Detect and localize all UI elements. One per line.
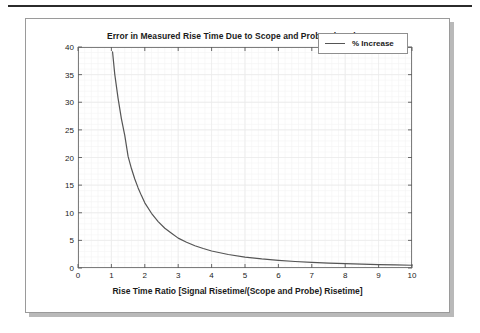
series-line-percent-increase [113,52,412,265]
x-tick-label: 4 [209,271,213,280]
y-tick-label: 10 [65,208,74,217]
y-tick-label: 25 [65,125,74,134]
y-tick-label: 30 [65,98,74,107]
x-tick-label: 8 [343,271,347,280]
y-tick-label: 40 [65,43,74,52]
chart-figure: Error in Measured Rise Time Due to Scope… [25,18,450,313]
plot-area: 0510152025303540 012345678910 [78,47,412,268]
chart-legend: % Increase [318,33,408,54]
legend-label-percent-increase: % Increase [352,39,394,48]
y-tick-label: 15 [65,181,74,190]
x-axis-title: Rise Time Ratio [Signal Risetime/(Scope … [25,286,450,296]
y-tick-label: 0 [70,264,74,273]
y-tick-label: 35 [65,70,74,79]
top-horizontal-rule [8,5,472,7]
x-tick-label: 7 [310,271,314,280]
x-tick-label: 2 [143,271,147,280]
x-tick-label: 6 [276,271,280,280]
x-tick-label: 9 [376,271,380,280]
x-tick-label: 5 [243,271,247,280]
chart-page: Error in Measured Rise Time Due to Scope… [0,0,480,333]
x-tick-label: 10 [408,271,417,280]
x-tick-label: 3 [176,271,180,280]
x-tick-label: 0 [76,271,80,280]
y-tick-label: 5 [70,236,74,245]
x-tick-label: 1 [109,271,113,280]
y-tick-label: 20 [65,153,74,162]
plot-canvas [78,47,412,268]
legend-line-swatch [325,43,345,44]
